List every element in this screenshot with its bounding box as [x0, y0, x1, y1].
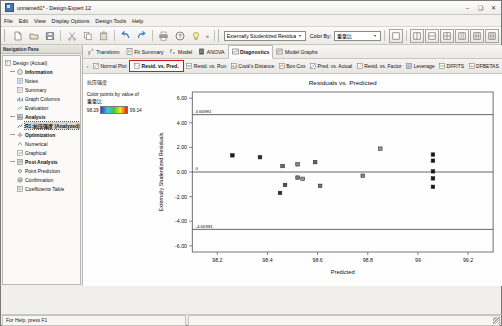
tree-item-notes[interactable]: Notes: [5, 76, 80, 85]
data-point[interactable]: [230, 154, 234, 157]
subtab-box-cox[interactable]: Box-Cox: [276, 61, 307, 72]
response-select-value: Externally Studentized Residuals: [227, 33, 296, 39]
subtab-cooks-distance[interactable]: Cook's Distance: [228, 61, 276, 72]
x-tick-label: 98.2: [212, 257, 222, 263]
tree-item-summary[interactable]: Summary: [5, 85, 80, 94]
data-point[interactable]: [431, 177, 435, 180]
menu-display-options[interactable]: Display Options: [52, 18, 90, 24]
data-point[interactable]: [361, 174, 365, 177]
menu-file[interactable]: File: [4, 18, 13, 24]
resize-grip[interactable]: [493, 317, 500, 324]
subtab-resid-vs-factor[interactable]: Resid. vs. Factor: [354, 61, 404, 72]
subtab-dfbetas[interactable]: DFBETAS: [466, 61, 501, 72]
paste-icon[interactable]: [96, 28, 111, 43]
cut-icon[interactable]: [64, 28, 79, 43]
tree-item-response-r1[interactable]: R1:抗压强度 (Analyzed): [5, 121, 80, 130]
data-point[interactable]: [431, 159, 435, 162]
tree-item-design[interactable]: Design (Actual): [5, 58, 80, 67]
tree-label-point-prediction: Point Prediction: [25, 168, 60, 174]
scatter-plot-container[interactable]: Residuals vs. Predicted6.004.002.000.00-…: [146, 74, 502, 286]
tip-icon[interactable]: [188, 28, 203, 43]
normal-plot-icon: [92, 63, 99, 70]
chart-title: Residuals vs. Predicted: [308, 79, 377, 86]
undo-icon[interactable]: [118, 28, 133, 43]
data-point[interactable]: [313, 160, 317, 163]
data-point[interactable]: [283, 183, 287, 186]
redo-icon[interactable]: [134, 28, 149, 43]
toolbar-overflow-button[interactable]: »: [204, 33, 211, 39]
tab-anova[interactable]: ANOVA: [195, 46, 227, 58]
data-point[interactable]: [280, 164, 284, 167]
tree-item-confirmation[interactable]: Confirmation: [5, 175, 80, 184]
data-point[interactable]: [431, 185, 435, 188]
menu-edit[interactable]: Edit: [19, 18, 28, 24]
data-point[interactable]: [318, 184, 322, 187]
menu-view[interactable]: View: [34, 18, 46, 24]
data-point[interactable]: [431, 170, 435, 173]
data-point[interactable]: [431, 153, 435, 156]
data-point[interactable]: [278, 191, 282, 194]
tree-label-confirmation: Confirmation: [25, 177, 53, 183]
data-point[interactable]: [378, 147, 382, 150]
color-by-select[interactable]: 重量比 ▾: [334, 31, 381, 41]
residuals-vs-predicted-plot[interactable]: Residuals vs. Predicted6.004.002.000.00-…: [146, 74, 502, 286]
tab-transform[interactable]: yλ Transform: [85, 46, 123, 58]
tree-label-evaluation: Evaluation: [25, 105, 48, 111]
subtab-label-dffits: DFFITS: [447, 63, 465, 69]
close-button[interactable]: ✕: [487, 2, 500, 13]
data-point[interactable]: [296, 176, 300, 179]
tab-fit-summary[interactable]: Fit Summary: [123, 46, 167, 58]
leverage-icon: [406, 63, 413, 70]
tree-item-information[interactable]: i Information: [5, 67, 80, 76]
tab-diagnostics[interactable]: Diagnostics: [228, 45, 274, 59]
open-icon[interactable]: [26, 28, 41, 43]
tree-item-numerical[interactable]: Numerical: [5, 139, 80, 148]
tree-label-graph-columns: Graph Columns: [25, 96, 60, 102]
data-point[interactable]: [258, 156, 262, 159]
table-icon: [5, 60, 11, 66]
minimize-button[interactable]: –: [461, 2, 474, 13]
coefficients-icon: [17, 186, 23, 192]
numerical-icon: [17, 141, 23, 147]
print-icon[interactable]: [156, 28, 171, 43]
navigation-tree[interactable]: Design (Actual) i Information Notes: [2, 55, 81, 285]
tab-model-graphs[interactable]: Model Graphs: [273, 46, 320, 58]
tree-item-graphical[interactable]: Graphical: [5, 148, 80, 157]
subtab-resid-vs-run[interactable]: Resid. vs. Run: [184, 61, 229, 72]
view-three-up-icon[interactable]: [425, 29, 439, 43]
view-single-icon[interactable]: [389, 29, 403, 43]
tree-item-coefficients-table[interactable]: Coefficients Table: [5, 184, 80, 193]
view-two-up-icon[interactable]: [410, 29, 424, 43]
tree-label-response-r1: R1:抗压强度 (Analyzed): [25, 122, 80, 129]
subtab-pred-vs-actual[interactable]: Pred. vs. Actual: [307, 61, 354, 72]
menu-design-tools[interactable]: Design Tools: [95, 18, 126, 24]
data-point[interactable]: [296, 163, 300, 166]
title-bar: unnamed1* - Design-Expert 12 – ❑ ✕: [1, 1, 501, 15]
copy-icon[interactable]: [80, 28, 95, 43]
help-icon[interactable]: ?: [172, 28, 187, 43]
tree-item-optimization[interactable]: Optimization: [5, 130, 80, 139]
maximize-button[interactable]: ❑: [474, 2, 487, 13]
tree-item-graph-columns[interactable]: Graph Columns: [5, 94, 80, 103]
response-select[interactable]: Externally Studentized Residuals ▾: [224, 31, 306, 41]
new-icon[interactable]: [10, 28, 25, 43]
view-grid-icon[interactable]: [440, 29, 454, 43]
subtab-resid-vs-pred[interactable]: Resid. vs. Pred.: [129, 60, 184, 72]
tree-item-analysis[interactable]: Analysis: [5, 112, 80, 121]
tab-model[interactable]: fx Model: [167, 46, 196, 58]
view-six-icon[interactable]: [470, 29, 484, 43]
toolbar-grip[interactable]: [4, 29, 7, 42]
menu-help[interactable]: Help: [132, 18, 143, 24]
view-eight-icon[interactable]: [485, 29, 499, 43]
subtab-dffits[interactable]: DFFITS: [437, 61, 467, 72]
optimization-icon: [17, 132, 23, 138]
subtab-leverage[interactable]: Leverage: [404, 61, 437, 72]
tree-item-evaluation[interactable]: Evaluation: [5, 103, 80, 112]
toolbar-grip-2[interactable]: [218, 29, 221, 42]
tree-item-post-analysis[interactable]: Post Analysis: [5, 157, 80, 166]
tree-item-point-prediction[interactable]: Point Prediction: [5, 166, 80, 175]
subtab-normal-plot[interactable]: Normal Plot: [90, 61, 128, 72]
save-icon[interactable]: [42, 28, 57, 43]
data-point[interactable]: [301, 177, 305, 180]
view-four-icon[interactable]: [455, 29, 469, 43]
